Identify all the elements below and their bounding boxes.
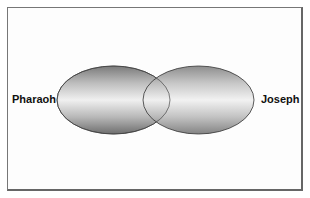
joseph-label: Joseph bbox=[261, 93, 300, 105]
joseph-ellipse bbox=[143, 66, 254, 134]
pharaoh-label: Pharaoh bbox=[12, 93, 56, 105]
